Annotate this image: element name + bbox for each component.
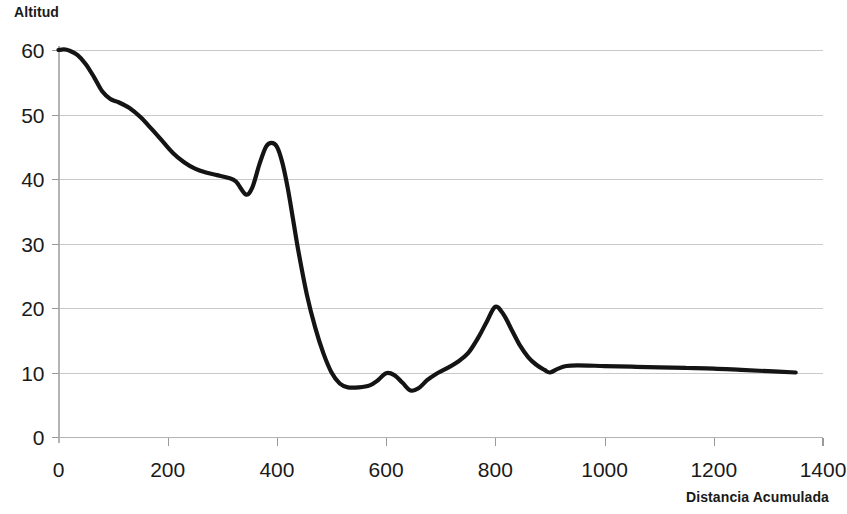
x-tick-label-600: 600 xyxy=(369,458,404,481)
x-axis-title: Distancia Acumulada xyxy=(686,489,829,505)
y-tick-label-40: 40 xyxy=(21,168,44,191)
y-tick-label-20: 20 xyxy=(21,297,44,320)
y-tick-label-50: 50 xyxy=(21,104,44,127)
x-tick-label-400: 400 xyxy=(259,458,294,481)
x-tick-label-800: 800 xyxy=(478,458,513,481)
axes xyxy=(59,46,824,446)
y-tick-label-60: 60 xyxy=(21,39,44,62)
y-tick-label-0: 0 xyxy=(33,426,45,449)
plot-area: 0102030405060 0200400600800100012001400 xyxy=(0,0,847,514)
y-tick-label-10: 10 xyxy=(21,362,44,385)
x-tick-label-1200: 1200 xyxy=(690,458,737,481)
gridlines xyxy=(59,51,824,438)
series-path-altitud xyxy=(59,49,796,390)
x-tick-label-200: 200 xyxy=(150,458,185,481)
tick-marks xyxy=(52,51,824,447)
x-tick-label-0: 0 xyxy=(53,458,65,481)
x-axis-tick-labels: 0200400600800100012001400 xyxy=(53,458,847,481)
y-tick-label-30: 30 xyxy=(21,233,44,256)
x-tick-label-1400: 1400 xyxy=(800,458,847,481)
y-axis-tick-labels: 0102030405060 xyxy=(21,39,44,449)
data-series-altitud xyxy=(59,49,796,390)
altitude-profile-chart: Altitud 0102030405060 020040060080010001… xyxy=(0,0,847,514)
x-tick-label-1000: 1000 xyxy=(581,458,628,481)
